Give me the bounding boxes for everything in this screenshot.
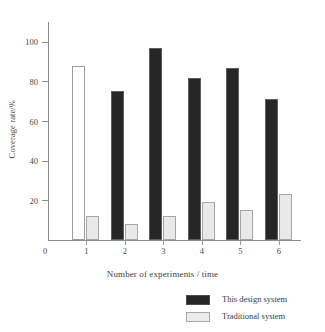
bar-traditional-system [86,216,99,240]
x-axis-tick [86,241,87,245]
x-axis-tick [125,241,126,245]
legend-swatch-icon-alt [186,312,210,322]
x-axis-tick [163,241,164,245]
x-axis-tick [202,241,203,245]
y-axis-tick-label: 60 [30,117,39,126]
x-axis-tick-label: 4 [200,247,204,256]
bar-this-design-system [149,48,162,240]
bar-traditional-system [125,224,138,240]
bar-traditional-system [240,210,253,240]
x-axis-tick-label: 5 [238,247,242,256]
bar-this-design-system [72,66,85,240]
bar-traditional-system [163,216,176,240]
legend-swatch-icon-main [186,295,210,305]
x-axis-tick-label: 3 [161,247,165,256]
x-axis-title: Number of experiments / time [0,270,325,279]
bar-group [265,22,292,240]
x-axis-tick [240,241,241,245]
bar-this-design-system [226,68,239,240]
y-axis-tick-label: 80 [30,78,39,87]
x-axis-tick-label: 1 [84,247,88,256]
bar-group [111,22,138,240]
y-axis-tick-label: 100 [25,38,38,47]
bar-group [149,22,176,240]
bar-chart: Coverage rate/% 20406080100 0 123456 Num… [0,0,325,332]
x-axis-tick-label: 2 [123,247,127,256]
origin-label: 0 [43,247,47,256]
bar-this-design-system [111,91,124,240]
bar-group [188,22,215,240]
bar-this-design-system [188,78,201,241]
legend-label-main: This design system [222,295,287,304]
bar-traditional-system [279,194,292,240]
x-axis-tick [279,241,280,245]
x-axis-tick-label: 6 [277,247,281,256]
y-axis-tick-label: 40 [30,157,39,166]
y-axis-title: Coverage rate/% [8,100,17,158]
chart-legend: This design system Traditional system [186,294,321,328]
legend-item-traditional-system: Traditional system [186,311,321,322]
bar-group [226,22,253,240]
bar-this-design-system [265,99,278,240]
bar-group [72,22,99,240]
y-axis-tick-label: 20 [30,196,39,205]
plot-area [48,22,300,240]
legend-label-alt: Traditional system [222,312,285,321]
bar-traditional-system [202,202,215,240]
legend-item-this-design-system: This design system [186,294,321,305]
